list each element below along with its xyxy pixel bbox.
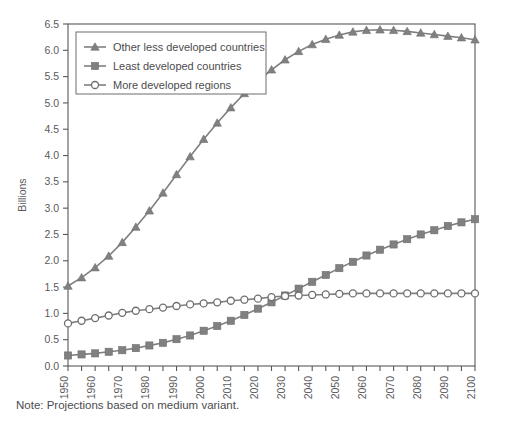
x-tick-label: 2010 [221, 376, 233, 400]
x-tick-label: 2030 [275, 376, 287, 400]
series-marker [294, 47, 302, 54]
series-marker [200, 300, 207, 307]
series-marker [417, 290, 424, 297]
x-tick-label: 2070 [384, 376, 396, 400]
series-marker [173, 303, 180, 310]
y-tick-label: 3.5 [44, 175, 59, 187]
x-tick-label: 2040 [302, 376, 314, 400]
series-marker [241, 296, 248, 303]
series-marker [431, 290, 438, 297]
series-marker [472, 290, 479, 297]
x-tick-label: 2080 [411, 376, 423, 400]
legend-label: Least developed countries [113, 60, 242, 72]
series-marker [417, 231, 424, 238]
series-marker [187, 332, 194, 339]
series-marker [458, 219, 465, 226]
series-marker [471, 216, 478, 223]
y-tick-label: 5.5 [44, 70, 59, 82]
series-marker [349, 258, 356, 265]
x-tick-label: 1970 [112, 376, 124, 400]
series-marker [159, 339, 166, 346]
series-marker [227, 297, 234, 304]
x-tick-label: 1960 [85, 376, 97, 400]
chart-canvas: 0.00.51.01.52.02.53.03.54.04.55.05.56.06… [0, 0, 511, 428]
series-marker [349, 290, 356, 297]
series-marker [309, 278, 316, 285]
series-marker [363, 290, 370, 297]
series-marker [376, 246, 383, 253]
chart-note: Note: Projections based on medium varian… [16, 399, 239, 411]
y-tick-label: 2.0 [44, 254, 59, 266]
y-tick-label: 6.5 [44, 18, 59, 30]
series-marker [404, 290, 411, 297]
series-marker [119, 309, 126, 316]
series-marker [282, 293, 289, 300]
y-tick-label: 3.0 [44, 202, 59, 214]
series-marker [390, 290, 397, 297]
series-marker [444, 222, 451, 229]
series-marker [64, 282, 72, 289]
y-tick-label: 1.0 [44, 307, 59, 319]
series-3 [65, 290, 479, 327]
x-tick-label: 2000 [194, 376, 206, 400]
series-marker [404, 236, 411, 243]
series-marker [309, 291, 316, 298]
series-marker [322, 271, 329, 278]
series-marker [227, 317, 234, 324]
series-marker [458, 290, 465, 297]
series-marker [431, 227, 438, 234]
legend-swatch-marker [91, 62, 98, 69]
series-marker [173, 336, 180, 343]
series-marker [187, 301, 194, 308]
series-marker [268, 294, 275, 301]
series-marker [322, 291, 329, 298]
series-marker [78, 351, 85, 358]
series-marker [241, 311, 248, 318]
y-tick-label: 5.0 [44, 97, 59, 109]
series-marker [78, 317, 85, 324]
x-tick-label: 1980 [139, 376, 151, 400]
series-marker [336, 290, 343, 297]
y-tick-label: 0.5 [44, 333, 59, 345]
series-marker [132, 307, 139, 314]
series-marker [336, 265, 343, 272]
series-marker [146, 306, 153, 313]
series-marker [363, 252, 370, 259]
series-line [68, 219, 475, 355]
series-marker [65, 320, 72, 327]
series-marker [254, 305, 261, 312]
series-marker [159, 304, 166, 311]
series-marker [377, 290, 384, 297]
series-marker [444, 290, 451, 297]
series-marker [92, 350, 99, 357]
x-tick-label: 1990 [167, 376, 179, 400]
x-tick-label: 2020 [248, 376, 260, 400]
series-marker [146, 342, 153, 349]
y-tick-label: 1.5 [44, 281, 59, 293]
legend-label: More developed regions [113, 79, 232, 91]
x-tick-label: 2060 [356, 376, 368, 400]
y-tick-label: 4.0 [44, 149, 59, 161]
legend-label: Other less developed countries [113, 41, 265, 53]
series-marker [214, 299, 221, 306]
series-marker [200, 327, 207, 334]
y-axis-title: Billions [16, 178, 28, 211]
series-marker [254, 295, 261, 302]
series-marker [105, 312, 112, 319]
x-tick-label: 2100 [465, 376, 477, 400]
y-tick-label: 6.0 [44, 44, 59, 56]
x-tick-label: 1950 [58, 376, 70, 400]
x-tick-label: 2050 [329, 376, 341, 400]
series-marker [281, 56, 289, 63]
series-marker [119, 347, 126, 354]
y-tick-label: 0.0 [44, 360, 59, 372]
chart-legend: Other less developed countriesLeast deve… [76, 32, 266, 94]
series-marker [295, 292, 302, 299]
series-marker [64, 352, 71, 359]
y-tick-label: 4.5 [44, 123, 59, 135]
legend-swatch-marker [92, 82, 99, 89]
series-marker [105, 348, 112, 355]
series-marker [390, 241, 397, 248]
series-marker [132, 345, 139, 352]
series-marker [92, 315, 99, 322]
